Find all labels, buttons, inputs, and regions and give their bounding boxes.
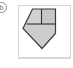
upper-right-square-region <box>42 9 56 24</box>
polygon-shape-diagram <box>0 0 73 68</box>
shape-regions <box>23 9 56 49</box>
figure-panel: b <box>0 0 73 68</box>
